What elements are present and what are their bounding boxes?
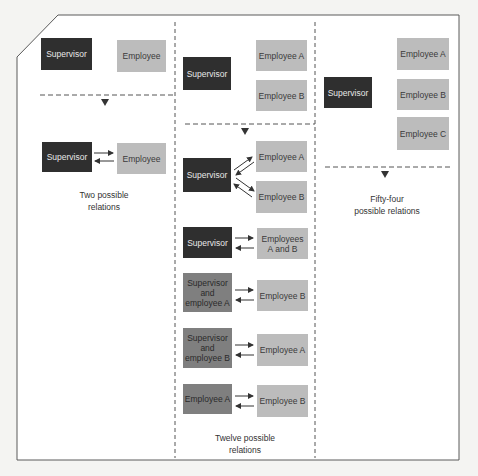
employee-c-box: Employee C xyxy=(397,117,449,150)
employee-a-box: Employee A xyxy=(256,141,307,172)
supervisor-box: Supervisor xyxy=(41,38,92,70)
diagram-frame xyxy=(0,0,478,476)
employee-b-box: Employee B xyxy=(257,385,308,417)
middle-caption: Twelve possible relations xyxy=(215,432,275,456)
supervisor-and-employee-a-box: Supervisor and employee A xyxy=(183,273,232,312)
left-caption: Two possible relations xyxy=(79,189,128,213)
employee-a-box: Employee A xyxy=(397,38,449,70)
supervisor-box: Supervisor xyxy=(183,57,231,90)
supervisor-and-employee-b-box: Supervisor and employee B xyxy=(183,328,232,368)
employee-a-box: Employee A xyxy=(183,384,232,414)
employee-box: Employee xyxy=(117,40,166,72)
employee-b-box: Employee B xyxy=(257,280,308,311)
employee-b-box: Employee B xyxy=(256,181,307,213)
employees-ab-box: Employees A and B xyxy=(257,228,308,259)
employee-b-box: Employee B xyxy=(397,79,449,110)
supervisor-box: Supervisor xyxy=(183,227,232,258)
supervisor-box: Supervisor xyxy=(324,77,372,108)
employee-a-box: Employee A xyxy=(256,40,307,71)
employee-b-box: Employee B xyxy=(256,80,307,111)
right-caption: Fifty-four possible relations xyxy=(354,193,420,217)
supervisor-box: Supervisor xyxy=(42,142,92,172)
employee-a-box: Employee A xyxy=(257,334,308,366)
employee-box: Employee xyxy=(117,143,166,174)
supervisor-box: Supervisor xyxy=(183,158,231,192)
